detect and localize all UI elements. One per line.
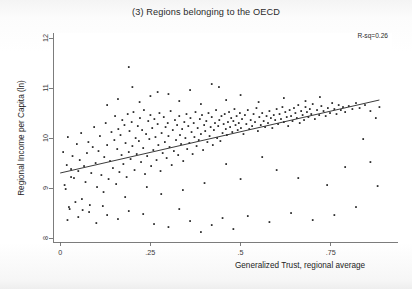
scatter-point [355,102,357,104]
scatter-point [150,165,152,167]
scatter-point [214,122,216,124]
scatter-point [117,98,119,100]
scatter-plot: 89101112 0.25.5.75 Generalized Trust, re… [0,0,412,289]
scatter-point [318,114,320,116]
scatter-point [201,114,203,116]
scatter-point [168,135,170,137]
y-tick-label: 12 [41,34,50,42]
scatter-point [177,154,179,156]
scatter-point [282,106,284,108]
scatter-point [211,83,213,85]
scatter-point [164,141,166,143]
scatter-point [267,122,269,124]
scatter-point [312,103,314,105]
scatter-point [153,223,155,225]
scatter-point [69,208,71,210]
scatter-point [121,119,123,121]
scatter-point [257,130,259,132]
scatter-point [103,156,105,158]
scatter-point [70,176,72,178]
scatter-point [168,93,170,95]
scatter-point [76,143,78,145]
scatter-point [344,166,346,168]
scatter-point [147,120,149,122]
scatter-point [125,142,127,144]
scatter-point [273,114,275,116]
scatter-point [138,140,140,142]
scatter-point [240,178,242,180]
scatter-point [75,201,77,203]
y-tick-label: 10 [41,134,50,142]
scatter-point [82,209,84,211]
scatter-point [364,104,366,106]
scatter-point [131,121,133,123]
scatter-point [207,141,209,143]
scatter-point [186,148,188,150]
scatter-point [144,173,146,175]
scatter-point [290,212,292,214]
scatter-point [86,152,88,154]
scatter-point [66,164,68,166]
figure-container: (3) Regions belonging to the OECD 891011… [0,0,412,289]
scatter-point [143,109,145,111]
y-axis-ticks: 89101112 [41,34,53,240]
scatter-point [142,147,144,149]
scatter-point [305,100,307,102]
scatter-point [234,108,236,110]
scatter-point [370,110,372,112]
scatter-point [314,118,316,120]
scatter-point [203,124,205,126]
scatter-point [370,161,372,163]
scatter-point [306,111,308,113]
scatter-point [254,121,256,123]
scatter-point [168,226,170,228]
scatter-point [132,86,134,88]
scatter-point [377,185,379,187]
scatter-point [280,118,282,120]
scatter-point [246,123,248,125]
scatter-point [284,111,286,113]
scatter-point [159,112,161,114]
scatter-point [200,103,202,105]
scatter-point [141,129,143,131]
scatter-point [240,127,242,129]
scatter-point [174,119,176,121]
scatter-point [130,158,132,160]
scatter-point [205,120,207,122]
scatter-point [185,137,187,139]
scatter-point [326,184,328,186]
scatter-point [182,160,184,162]
scatter-point [64,184,66,186]
scatter-point [300,110,302,112]
x-axis-ticks: 0.25.5.75 [58,242,335,257]
scatter-point [152,149,154,151]
scatter-point [132,145,134,147]
scatter-point [208,112,210,114]
scatter-point [327,107,329,109]
scatter-point [163,116,165,118]
scatter-point [134,169,136,171]
scatter-point [238,122,240,124]
scatter-point [62,151,64,153]
scatter-point [83,165,85,167]
scatter-point [191,131,193,133]
scatter-point [161,132,163,134]
scatter-point [225,163,227,165]
scatter-point [227,121,229,123]
scatter-point [269,221,271,223]
scatter-point [215,109,217,111]
scatter-point [155,136,157,138]
scatter-point [65,188,67,190]
scatter-point [334,108,336,110]
scatter-point [209,135,211,137]
scatter-point [302,114,304,116]
scatter-point [253,113,255,115]
scatter-point [236,115,238,117]
scatter-point [117,218,119,220]
scatter-point [103,191,105,193]
scatter-point [77,170,79,172]
scatter-point [212,144,214,146]
scatter-point [204,130,206,132]
scatter-point [93,126,95,128]
scatter-point [243,133,245,135]
